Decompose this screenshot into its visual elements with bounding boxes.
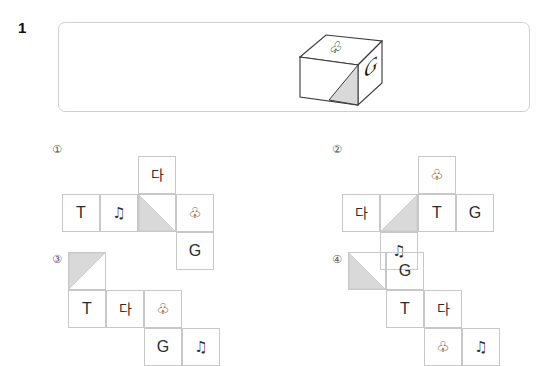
option-2-cell-g: G bbox=[456, 194, 494, 232]
option-2-cell-da: 다 bbox=[342, 194, 380, 232]
option-3-cell-g: G bbox=[144, 328, 182, 366]
option-4-cell-da: 다 bbox=[424, 290, 462, 328]
option-1-cell-club: ♧ bbox=[176, 194, 214, 232]
option-3-cell-da: 다 bbox=[106, 290, 144, 328]
option-1-cell-g: G bbox=[176, 232, 214, 270]
option-2-cell-t: T bbox=[418, 194, 456, 232]
option-3-cell-da-text: 다 bbox=[119, 302, 132, 316]
option-4-cell-g-text: G bbox=[399, 263, 411, 279]
option-4-cell-g: G bbox=[386, 252, 424, 290]
option-4-cell-note: ♫ bbox=[462, 328, 500, 366]
question-number: 1 bbox=[18, 19, 26, 36]
option-3-cell-note-text: ♫ bbox=[194, 340, 207, 355]
option-1-cell-da: 다 bbox=[138, 156, 176, 194]
option-1-cell-note: ♫ bbox=[100, 194, 138, 232]
shaded-triangle-icon bbox=[381, 195, 417, 231]
shaded-triangle-icon bbox=[69, 253, 105, 289]
option-2-cell-club: ♧ bbox=[418, 156, 456, 194]
option-3-cell-club-text: ♧ bbox=[156, 302, 169, 317]
option-3-cell-g-text: G bbox=[157, 339, 169, 355]
option-4-cell-tri bbox=[348, 252, 386, 290]
option-1-cell-da-text: 다 bbox=[151, 168, 164, 182]
option-3-label: ③ bbox=[52, 254, 62, 265]
option-4-cell-club: ♧ bbox=[424, 328, 462, 366]
option-2-cell-da-text: 다 bbox=[355, 206, 368, 220]
option-2-cell-t-text: T bbox=[432, 205, 442, 221]
option-4-cell-note-text: ♫ bbox=[474, 340, 487, 355]
option-1-cell-club-text: ♧ bbox=[188, 206, 201, 221]
option-3-cell-club: ♧ bbox=[144, 290, 182, 328]
question-prompt-box: ♧ G bbox=[58, 22, 530, 112]
shaded-triangle-icon bbox=[349, 253, 385, 289]
option-1-label: ① bbox=[52, 144, 62, 155]
option-1-cell-g-text: G bbox=[189, 243, 201, 259]
option-3-cell-tri bbox=[68, 252, 106, 290]
option-1-cell-tri bbox=[138, 194, 176, 232]
option-3-cell-t: T bbox=[68, 290, 106, 328]
option-2-label: ② bbox=[332, 144, 342, 155]
option-3-cell-note: ♫ bbox=[182, 328, 220, 366]
shaded-triangle-icon bbox=[139, 195, 175, 231]
option-4-cell-t-text: T bbox=[400, 301, 410, 317]
option-2-cell-club-text: ♧ bbox=[430, 168, 443, 183]
option-4-label: ④ bbox=[332, 254, 342, 265]
option-2-cell-g-text: G bbox=[469, 205, 481, 221]
option-4-cell-t: T bbox=[386, 290, 424, 328]
cube-figure: ♧ G bbox=[296, 29, 386, 109]
option-2-cell-tri bbox=[380, 194, 418, 232]
option-3-cell-t-text: T bbox=[82, 301, 92, 317]
option-1-cell-t: T bbox=[62, 194, 100, 232]
option-4-cell-club-text: ♧ bbox=[436, 340, 449, 355]
option-1-cell-t-text: T bbox=[76, 205, 86, 221]
option-1-cell-note-text: ♫ bbox=[112, 206, 125, 221]
option-4-cell-da-text: 다 bbox=[437, 302, 450, 316]
